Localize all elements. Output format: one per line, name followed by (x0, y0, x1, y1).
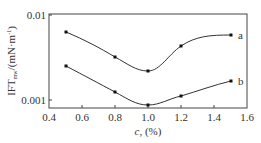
x-tick-label: 0.4 (42, 111, 56, 123)
x-axis-label: c, (%) (135, 125, 162, 138)
x-tick-label: 1.0 (141, 111, 155, 123)
y-tick-label: 0.001 (21, 94, 46, 106)
x-tick-label: 1.2 (174, 111, 188, 123)
series-b: b (65, 65, 245, 107)
svg-text:IFTmw/(mN·m-1): IFTmw/(mN·m-1) (5, 26, 18, 96)
x-tick-label: 0.6 (75, 111, 89, 123)
y-axis: 0.01 0.001 (21, 9, 52, 106)
y-axis-label: IFTmw/(mN·m-1) (5, 26, 18, 96)
x-tick-label: 0.8 (108, 111, 122, 123)
series-label-a: a (238, 29, 243, 41)
x-tick-label: 1.6 (240, 111, 254, 123)
y-tick-label: 0.01 (27, 9, 46, 21)
plot-frame (49, 14, 247, 108)
ift-chart: 0.01 0.001 0.4 0.6 0.8 1.0 1.2 1.4 1.6 c… (0, 0, 261, 143)
x-tick-label: 1.4 (207, 111, 221, 123)
series-label-b: b (238, 75, 244, 87)
series-a: a (65, 29, 244, 73)
